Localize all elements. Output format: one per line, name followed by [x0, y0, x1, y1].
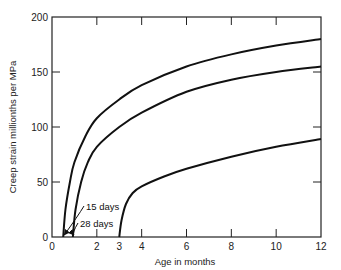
x-tick-label: 0	[49, 241, 55, 252]
annotation-label: 15 days	[86, 201, 120, 212]
y-tick-label: 50	[37, 177, 49, 188]
annotation-label: 28 days	[80, 218, 114, 229]
y-tick-label: 200	[31, 12, 48, 23]
x-tick-label: 2	[94, 241, 100, 252]
curve-3-months	[119, 139, 321, 237]
y-tick-label: 0	[42, 232, 48, 243]
y-tick-label: 100	[31, 122, 48, 133]
y-axis-title: Creep strain millionths per MPa	[7, 60, 18, 193]
x-tick-label: 12	[315, 241, 327, 252]
x-axis-ticks: 0234681012	[49, 17, 327, 252]
x-axis-title: Age in months	[155, 256, 216, 267]
creep-strain-chart: 050100150200 0234681012 15 days28 days A…	[0, 0, 341, 270]
x-tick-label: 3	[116, 241, 122, 252]
x-tick-label: 4	[139, 241, 145, 252]
x-tick-label: 10	[271, 241, 283, 252]
y-tick-label: 150	[31, 67, 48, 78]
x-tick-label: 6	[184, 241, 190, 252]
x-tick-label: 8	[229, 241, 235, 252]
